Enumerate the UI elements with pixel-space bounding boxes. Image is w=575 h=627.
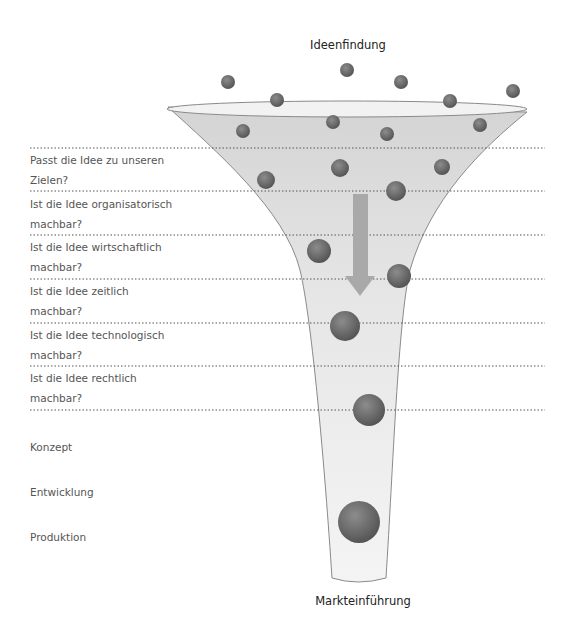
question-technological: Ist die Idee technologischmachbar? xyxy=(30,325,164,365)
funnel-rim xyxy=(167,101,527,117)
stage-concept: Konzept xyxy=(30,441,72,453)
stage-production: Produktion xyxy=(30,531,86,543)
innovation-funnel-diagram: Ideenfindung Passt die Idee zu unserenZi… xyxy=(0,0,575,627)
question-economic: Ist die Idee wirtschaftlichmachbar? xyxy=(30,237,162,277)
stage-development: Entwicklung xyxy=(30,486,94,498)
question-legal: Ist die Idee rechtlichmachbar? xyxy=(30,368,137,408)
question-temporal: Ist die Idee zeitlichmachbar? xyxy=(30,281,129,321)
question-goals: Passt die Idee zu unserenZielen? xyxy=(30,150,164,190)
bottom-label: Markteinführung xyxy=(300,594,426,608)
question-organisational: Ist die Idee organisatorischmachbar? xyxy=(30,194,172,234)
top-label: Ideenfindung xyxy=(300,38,396,52)
